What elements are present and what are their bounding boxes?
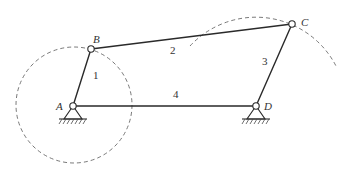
joint-a-icon [70, 103, 76, 109]
four-bar-linkage-diagram: A B C D 1 2 3 4 [0, 0, 350, 175]
joint-b-icon [88, 46, 94, 52]
label-point-c: C [301, 16, 309, 28]
link-1-crank [73, 49, 91, 106]
label-link-2: 2 [170, 44, 176, 56]
label-point-d: D [263, 100, 272, 112]
label-point-a: A [55, 100, 63, 112]
link-2-coupler [91, 24, 292, 49]
label-link-1: 1 [93, 69, 99, 81]
label-link-4: 4 [173, 88, 179, 100]
label-point-b: B [93, 33, 100, 45]
joint-d-icon [253, 103, 259, 109]
label-link-3: 3 [262, 55, 268, 67]
joint-c-icon [289, 21, 295, 27]
